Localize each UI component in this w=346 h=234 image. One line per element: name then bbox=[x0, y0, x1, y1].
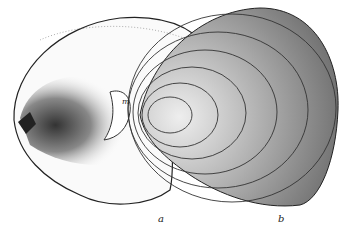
label-b: b bbox=[278, 213, 284, 224]
label-m: m bbox=[122, 97, 130, 106]
shell-engraving: m a b bbox=[0, 0, 346, 234]
shell-illustration bbox=[0, 0, 346, 234]
label-a: a bbox=[158, 213, 164, 224]
